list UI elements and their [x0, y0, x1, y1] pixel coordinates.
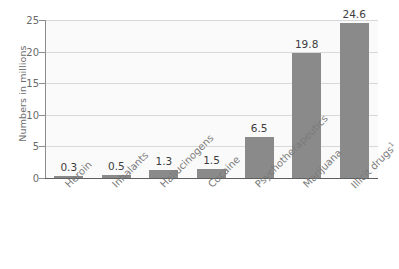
- footnote-marker: 1: [387, 140, 396, 149]
- bar: [340, 23, 369, 178]
- gridline: [46, 83, 378, 84]
- y-axis-ticks: 0510152025: [0, 0, 39, 269]
- bar-value-label: 24.6: [328, 8, 380, 20]
- gridline: [46, 52, 378, 53]
- y-tick-mark: [39, 115, 45, 116]
- y-tick-label: 15: [5, 78, 39, 89]
- y-tick-mark: [39, 20, 45, 21]
- bar-value-label: 19.8: [281, 38, 333, 50]
- gridline: [46, 146, 378, 147]
- y-tick-label: 25: [5, 15, 39, 26]
- y-tick-mark: [39, 52, 45, 53]
- bar: [292, 53, 321, 178]
- y-tick-mark: [39, 146, 45, 147]
- y-tick-label: 20: [5, 46, 39, 57]
- y-tick-mark: [39, 83, 45, 84]
- y-tick-label: 5: [5, 141, 39, 152]
- bar-value-label: 6.5: [233, 122, 285, 134]
- y-tick-label: 10: [5, 109, 39, 120]
- y-tick-mark: [39, 178, 45, 179]
- y-tick-label: 0: [5, 173, 39, 184]
- gridline: [46, 115, 378, 116]
- gridline: [46, 20, 378, 21]
